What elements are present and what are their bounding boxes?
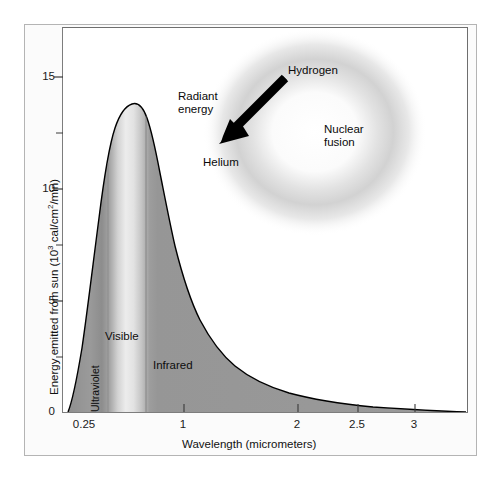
plot-panel: Ultraviolet Visible Infrared Radiant ene… [62, 27, 468, 413]
x-tick-label-2: 2 [277, 418, 317, 430]
sun-label-hydrogen: Hydrogen [288, 64, 338, 77]
sun-label-nuclear-fusion: Nuclear fusion [324, 123, 364, 149]
x-tick-label-2-5: 2.5 [337, 418, 377, 430]
band-label-ultraviolet: Ultraviolet [89, 365, 101, 412]
x-tick-label-3: 3 [394, 418, 434, 430]
band-label-visible: Visible [105, 330, 139, 342]
sun-label-radiant-energy: Radiant energy [178, 90, 218, 116]
nuclear-fusion-line2: fusion [324, 136, 355, 148]
x-tick-label-0-25: 0.25 [64, 418, 104, 430]
nuclear-fusion-line1: Nuclear [324, 123, 364, 135]
figure-root: Energy emitted from sun (103 cal/cm2/min… [0, 0, 495, 481]
sun-label-helium: Helium [203, 156, 239, 169]
radiant-energy-line2: energy [178, 103, 213, 115]
plot-svg [63, 28, 467, 412]
radiant-energy-line1: Radiant [178, 90, 218, 102]
x-tick-label-1: 1 [163, 418, 203, 430]
band-label-infrared: Infrared [153, 359, 193, 371]
x-axis-label: Wavelength (micrometers) [182, 438, 316, 450]
y-axis-ticks [50, 20, 70, 420]
